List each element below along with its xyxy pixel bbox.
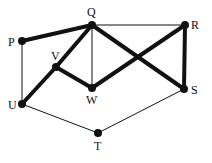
edges-layer <box>22 25 185 133</box>
node-label-R: R <box>191 18 199 32</box>
node-label-W: W <box>86 93 98 107</box>
node-Q <box>88 21 96 29</box>
node-label-V: V <box>51 49 60 63</box>
node-label-T: T <box>94 139 102 153</box>
node-T <box>94 129 102 137</box>
node-P <box>18 37 26 45</box>
node-U <box>18 100 26 108</box>
node-label-Q: Q <box>87 5 96 19</box>
node-label-U: U <box>8 98 17 112</box>
node-label-S: S <box>191 83 198 97</box>
node-S <box>180 85 188 93</box>
edge-U-T <box>22 104 98 133</box>
node-label-P: P <box>8 35 15 49</box>
node-V <box>52 63 60 71</box>
edge-V-W <box>56 67 92 88</box>
edge-T-S <box>98 89 184 133</box>
node-W <box>88 84 96 92</box>
edge-R-S <box>184 25 185 89</box>
node-R <box>181 21 189 29</box>
edge-V-U <box>22 67 56 104</box>
graph-diagram: PQRVUWST <box>0 0 212 163</box>
